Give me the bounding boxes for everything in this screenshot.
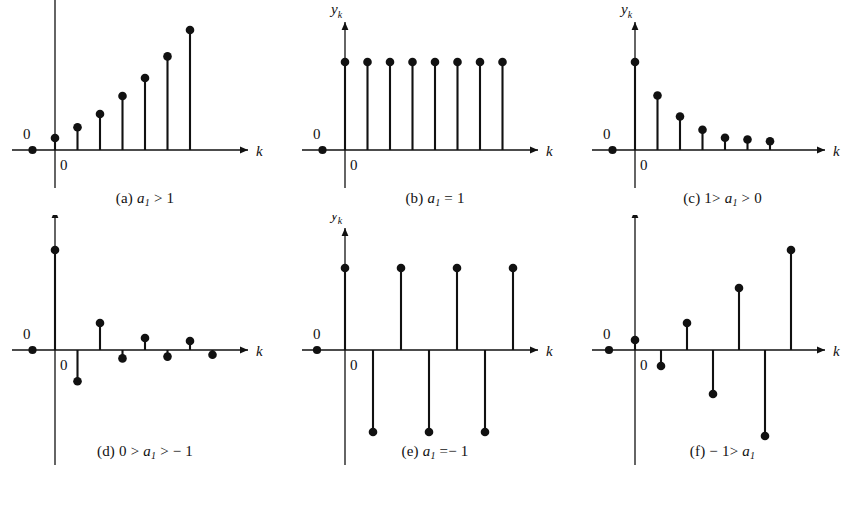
x-axis-label: k	[256, 343, 263, 359]
stem-e-1	[369, 350, 378, 436]
caption-tail: > − 1	[160, 443, 193, 459]
y-axis-label: yk	[329, 215, 343, 226]
stem-a-5	[163, 52, 172, 150]
stem-d-5	[163, 350, 172, 361]
plot-panel-b: ykk00(b) a1 = 1	[290, 0, 580, 215]
origin-zero-label: 0	[60, 357, 68, 373]
stem-plot-figure: ykk00(a) a1 > 1ykk00(b) a1 = 1ykk00(c) 1…	[0, 0, 865, 512]
stem-b-4	[431, 58, 440, 150]
stem-f-2	[683, 319, 692, 350]
panel-caption-e: (e) a1 =− 1	[290, 443, 580, 461]
stem-b-0	[341, 58, 350, 150]
stem-c-6	[766, 137, 775, 150]
x-axis-label: k	[546, 343, 553, 359]
y-axis-label: yk	[619, 1, 633, 20]
stem-b-5	[453, 58, 462, 150]
stem-c-5	[743, 135, 752, 150]
zero-sample-dot	[28, 346, 36, 354]
y-axis-label: yk	[329, 1, 343, 20]
stem-c-1	[653, 91, 662, 150]
stem-e-5	[481, 350, 490, 436]
caption-tail: > 0	[742, 190, 762, 206]
stem-b-6	[476, 58, 485, 150]
stem-b-7	[498, 58, 507, 150]
stem-d-7	[208, 350, 217, 359]
x-axis-label: k	[256, 143, 263, 159]
stem-d-6	[186, 337, 195, 350]
x-axis	[12, 147, 248, 154]
zero-sample-dot	[608, 146, 616, 154]
left-zero-label: 0	[603, 326, 611, 342]
plot-panel-c: ykk00(c) 1> a1 > 0	[580, 0, 865, 215]
stem-d-0	[51, 246, 60, 350]
stem-plot-d: ykk00	[0, 215, 290, 512]
caption-prefix: (e)	[401, 443, 418, 459]
stem-c-0	[631, 58, 640, 150]
x-axis	[592, 147, 825, 154]
stem-b-1	[363, 58, 372, 150]
zero-sample-dot	[318, 146, 326, 154]
stem-a-1	[73, 123, 82, 150]
zero-sample-dot	[605, 346, 613, 354]
x-axis-label: k	[546, 143, 553, 159]
stem-f-3	[709, 350, 718, 398]
left-zero-label: 0	[313, 326, 321, 342]
caption-prefix: (b)	[405, 190, 423, 206]
caption-lead: − 1>	[709, 443, 738, 459]
caption-prefix: (c)	[683, 190, 700, 206]
stem-b-2	[386, 58, 395, 150]
caption-prefix: (d)	[97, 443, 115, 459]
caption-prefix: (a)	[116, 190, 133, 206]
x-axis	[302, 347, 538, 354]
left-zero-label: 0	[23, 126, 31, 142]
plot-panel-f: ykk00(f) − 1> a1	[580, 215, 865, 512]
caption-rest: > 1	[154, 190, 174, 206]
left-zero-label: 0	[313, 126, 321, 142]
origin-zero-label: 0	[350, 357, 358, 373]
stem-a-6	[186, 26, 195, 150]
caption-variable: a	[742, 443, 750, 459]
stem-plot-f: ykk00	[580, 215, 865, 512]
panel-caption-d: (d) 0 > a1 > − 1	[0, 443, 290, 461]
caption-subscript: 1	[145, 197, 150, 208]
caption-lead: 0 >	[119, 443, 139, 459]
stem-f-0	[631, 336, 640, 350]
caption-prefix: (f)	[690, 443, 706, 459]
stem-e-4	[453, 264, 462, 350]
stem-plot-a: ykk00	[0, 0, 290, 215]
x-axis-label: k	[833, 143, 840, 159]
stem-plot-c: ykk00	[580, 0, 865, 215]
panel-caption-a: (a) a1 > 1	[0, 190, 290, 208]
stem-f-6	[787, 246, 796, 350]
left-zero-label: 0	[603, 126, 611, 142]
caption-variable: a	[427, 190, 435, 206]
stem-a-0	[51, 134, 60, 150]
panel-caption-b: (b) a1 = 1	[290, 190, 580, 208]
zero-sample-dot	[28, 146, 36, 154]
stem-d-2	[96, 319, 105, 350]
stem-plot-e: ykk00	[290, 215, 580, 512]
stem-a-4	[141, 74, 150, 150]
stem-a-2	[96, 110, 105, 150]
caption-subscript: 1	[732, 197, 737, 208]
x-axis-label: k	[833, 343, 840, 359]
plot-panel-d: ykk00(d) 0 > a1 > − 1	[0, 215, 290, 512]
caption-variable: a	[137, 190, 145, 206]
origin-zero-label: 0	[350, 157, 358, 173]
y-axis	[52, 0, 59, 188]
caption-subscript: 1	[435, 197, 440, 208]
stem-e-2	[397, 264, 406, 350]
stem-d-3	[118, 350, 127, 363]
panel-caption-f: (f) − 1> a1	[580, 443, 865, 461]
stem-f-5	[761, 350, 770, 440]
stem-c-4	[721, 133, 730, 150]
origin-zero-label: 0	[640, 357, 648, 373]
stem-plot-b: ykk00	[290, 0, 580, 215]
stem-c-3	[698, 125, 707, 150]
caption-rest: = 1	[444, 190, 464, 206]
stem-f-4	[735, 284, 744, 350]
plot-panel-e: ykk00(e) a1 =− 1	[290, 215, 580, 512]
caption-lead: 1>	[704, 190, 720, 206]
stem-e-6	[509, 264, 518, 350]
stem-e-0	[341, 264, 350, 350]
